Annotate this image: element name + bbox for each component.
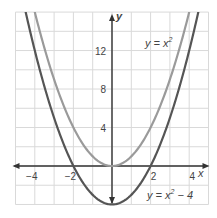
eq2-tail: − 4 — [174, 189, 193, 201]
y-tick-label: 4 — [100, 123, 106, 134]
parabola-graph: −4−2244812 x y y = x2 y = x2 − 4 — [0, 0, 217, 218]
x-tick-label: −4 — [26, 171, 38, 182]
equation-label-x-squared: y = x2 — [144, 36, 173, 49]
x-tick-label: 4 — [189, 171, 195, 182]
y-tick-label: 8 — [100, 84, 106, 95]
equation-label-x-squared-minus-4: y = x2 − 4 — [146, 188, 193, 201]
eq1-main: y = x — [144, 37, 169, 49]
x-tick-label: 2 — [151, 171, 157, 182]
x-tick-label: −2 — [65, 171, 77, 182]
y-axis-up-arrow-icon — [109, 14, 115, 21]
y-axis-label: y — [115, 10, 123, 22]
eq2-main: y = x — [146, 189, 171, 201]
y-tick-label: 12 — [95, 46, 107, 57]
eq1-sup: 2 — [168, 36, 173, 43]
x-axis-label: x — [197, 167, 204, 179]
y-axis-down-arrow-icon — [109, 197, 115, 204]
